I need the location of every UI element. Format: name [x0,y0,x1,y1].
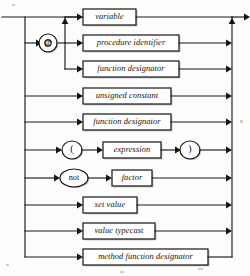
at-terminal-label: @ [44,38,52,47]
row-procedure-identifier[interactable]: procedure identifier [83,35,232,52]
row-parenthesized-expression[interactable]: ( expression ) [25,141,232,160]
syntax-diagram-canvas: @ variable procedure identifier function… [0,0,250,276]
row-function-designator-1[interactable]: function designator [83,61,232,78]
row-function-designator-2-label: function designator [93,117,161,126]
row-function-designator-1-label: function designator [97,64,165,73]
row-unsigned-constant[interactable]: unsigned constant [25,88,232,105]
row-factor-label: factor [122,173,143,182]
row-expression-label: expression [114,145,151,154]
row-set-value-label: set value [95,200,126,209]
row-variable-label: variable [95,12,124,21]
row-set-value[interactable]: set value [25,197,232,214]
row-method-function-designator-label: method function designator [98,252,193,261]
not-terminal-label: not [69,173,80,182]
rparen-terminal-label: ) [188,143,191,155]
row-value-typecast-label: value typecast [94,226,144,235]
row-not-factor[interactable]: not factor [25,169,232,188]
at-terminal[interactable]: @ [39,34,58,53]
row-procedure-identifier-label: procedure identifier [96,38,166,47]
railroad-diagram: @ variable procedure identifier function… [0,0,250,276]
row-unsigned-constant-label: unsigned constant [96,91,159,100]
row-value-typecast[interactable]: value typecast [25,223,232,240]
row-variable[interactable]: variable [83,9,232,26]
row-function-designator-2[interactable]: function designator [25,114,232,131]
row-method-function-designator[interactable]: method function designator [25,249,232,266]
